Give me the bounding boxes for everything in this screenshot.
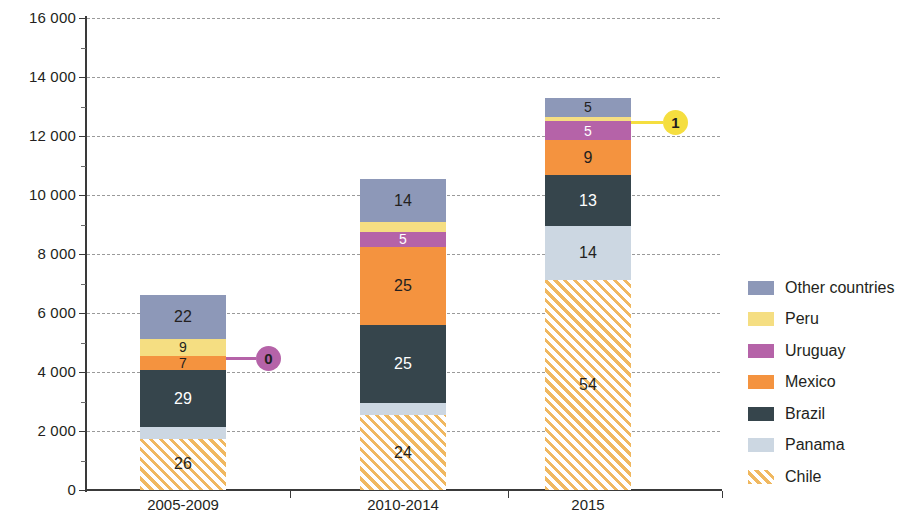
- legend-item-mexico[interactable]: Mexico: [748, 367, 914, 399]
- legend-label: Other countries: [785, 279, 894, 297]
- x-axis-label: 2015: [508, 496, 668, 513]
- x-axis-label: 2005-2009: [103, 496, 263, 513]
- bar-segment-other-countries[interactable]: 22: [140, 295, 226, 338]
- x-axis-label: 2010-2014: [323, 496, 483, 513]
- bar-segment-brazil[interactable]: 13: [545, 175, 631, 226]
- bar-segment-peru[interactable]: [360, 222, 446, 231]
- bar-segment-brazil[interactable]: 25: [360, 325, 446, 403]
- legend-item-other-countries[interactable]: Other countries: [748, 272, 914, 304]
- x-axis-tick-mark: [508, 491, 509, 498]
- bar-segment-value: 14: [579, 245, 597, 261]
- bar-segment-panama[interactable]: [360, 403, 446, 415]
- y-axis-tick-label: 16 000: [0, 9, 76, 26]
- legend-item-chile[interactable]: Chile: [748, 461, 914, 493]
- bar-segment-value: 5: [584, 100, 592, 114]
- chart-legend: Other countriesPeruUruguayMexicoBrazilPa…: [748, 272, 914, 493]
- y-axis-tick-label: 12 000: [0, 127, 76, 144]
- legend-label: Uruguay: [785, 342, 845, 360]
- y-axis-tick-mark: [79, 490, 86, 491]
- bar-segment-panama[interactable]: [140, 427, 226, 439]
- legend-item-panama[interactable]: Panama: [748, 430, 914, 462]
- bar-segment-value: 25: [394, 356, 412, 372]
- bar-segment-value: 24: [394, 445, 412, 461]
- legend-label: Chile: [785, 468, 821, 486]
- callout-leader-line: [631, 121, 663, 124]
- bar-segment-value: 9: [179, 340, 187, 354]
- value-callout-peru: 1: [631, 110, 688, 135]
- bar-segment-value: 26: [174, 456, 192, 472]
- legend-label: Brazil: [785, 405, 825, 423]
- bar-segment-uruguay[interactable]: 5: [545, 121, 631, 140]
- bar-group[interactable]: 242525514: [360, 179, 446, 490]
- bar-segment-value: 7: [179, 356, 187, 370]
- bar-segment-chile[interactable]: 54: [545, 280, 631, 490]
- y-axis-tick-label: 10 000: [0, 186, 76, 203]
- y-axis-tick-label: 0: [0, 481, 76, 498]
- x-axis-tick-mark: [722, 491, 723, 498]
- legend-item-peru[interactable]: Peru: [748, 304, 914, 336]
- legend-swatch-icon: [748, 312, 774, 326]
- bar-group[interactable]: 26297922: [140, 295, 226, 490]
- legend-label: Panama: [785, 436, 845, 454]
- bar-segment-value: 5: [399, 232, 407, 246]
- legend-item-uruguay[interactable]: Uruguay: [748, 335, 914, 367]
- legend-swatch-icon: [748, 438, 774, 452]
- value-callout-uruguay: 0: [226, 346, 281, 371]
- x-axis-tick-mark: [290, 491, 291, 498]
- bar-segment-value: 9: [584, 150, 593, 166]
- legend-swatch-icon: [748, 344, 774, 358]
- y-axis-tick-label: 4 000: [0, 363, 76, 380]
- bar-segment-value: 29: [174, 391, 192, 407]
- bar-stack: 541413955: [545, 98, 631, 490]
- y-axis-tick-label: 14 000: [0, 68, 76, 85]
- bar-segment-mexico[interactable]: 7: [140, 356, 226, 370]
- bar-segment-panama[interactable]: 14: [545, 226, 631, 280]
- bar-group[interactable]: 541413955: [545, 98, 631, 490]
- bar-segment-other-countries[interactable]: 14: [360, 179, 446, 223]
- bar-segment-value: 54: [579, 377, 597, 393]
- bar-segment-value: 5: [584, 124, 592, 138]
- stacked-bar-chart: 02 0004 0006 0008 00010 00012 00014 0001…: [0, 0, 914, 518]
- bar-stack: 242525514: [360, 179, 446, 490]
- bar-segment-peru[interactable]: 9: [140, 339, 226, 357]
- bar-segment-chile[interactable]: 26: [140, 439, 226, 490]
- legend-swatch-icon: [748, 281, 774, 295]
- y-axis-tick-label: 6 000: [0, 304, 76, 321]
- legend-swatch-icon: [748, 470, 774, 484]
- callout-value-bubble: 1: [663, 110, 688, 135]
- legend-swatch-icon: [748, 375, 774, 389]
- callout-leader-line: [226, 357, 256, 360]
- legend-label: Mexico: [785, 373, 836, 391]
- bar-segment-uruguay[interactable]: 5: [360, 232, 446, 248]
- legend-label: Peru: [785, 310, 819, 328]
- bar-segment-value: 22: [174, 309, 192, 325]
- bar-stack: 26297922: [140, 295, 226, 490]
- bar-segment-mexico[interactable]: 9: [545, 140, 631, 175]
- legend-item-brazil[interactable]: Brazil: [748, 398, 914, 430]
- legend-swatch-icon: [748, 407, 774, 421]
- bar-segment-chile[interactable]: 24: [360, 415, 446, 490]
- bar-segment-peru[interactable]: [545, 117, 631, 121]
- y-axis-tick-label: 8 000: [0, 245, 76, 262]
- bar-segment-brazil[interactable]: 29: [140, 370, 226, 427]
- callout-value-bubble: 0: [256, 346, 281, 371]
- plot-area: 26297922242525514541413955: [85, 18, 720, 490]
- bar-segment-mexico[interactable]: 25: [360, 247, 446, 325]
- y-axis-tick-label: 2 000: [0, 422, 76, 439]
- bar-segment-value: 25: [394, 278, 412, 294]
- bar-segment-other-countries[interactable]: 5: [545, 98, 631, 117]
- bar-segment-value: 13: [579, 193, 597, 209]
- bar-segment-value: 14: [394, 193, 412, 209]
